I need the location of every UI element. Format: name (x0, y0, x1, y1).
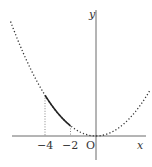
solid-segment (45, 95, 71, 126)
tick-label-minus-2: −2 (62, 139, 78, 152)
x-axis-label: x (137, 139, 144, 152)
origin-label: O (86, 139, 95, 152)
parabola-chart: y x O −4 −2 (0, 0, 152, 167)
tick-label-minus-4: −4 (37, 139, 53, 152)
y-axis-label: y (88, 8, 96, 21)
dotted-parabola (11, 22, 150, 136)
